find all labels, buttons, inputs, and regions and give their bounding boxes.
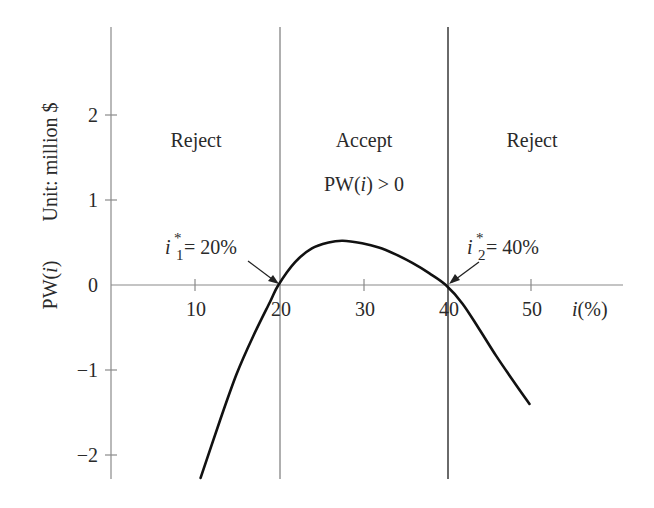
root2-rest: = 40% — [486, 236, 539, 258]
y-axis-label-group: PW(i) — [39, 261, 62, 310]
root-annotation-1: i * 1 = 20% — [165, 230, 279, 284]
x-tick-label-40: 40 — [439, 298, 459, 320]
x-tick-label-30: 30 — [355, 298, 375, 320]
x-axis-label: i(%) — [572, 298, 608, 321]
root2-sup: * — [476, 230, 484, 246]
x-axis-label-rest: (%) — [578, 298, 608, 321]
x-tick-labels: 10 20 30 40 50 — [186, 298, 542, 320]
x-tick-label-10: 10 — [186, 298, 206, 320]
unit-label-group: Unit: million $ — [39, 103, 61, 222]
y-tick-label-2: 2 — [88, 104, 98, 126]
root1-sub: 1 — [176, 247, 184, 263]
pw-curve — [201, 241, 530, 478]
region-label-reject-right: Reject — [506, 129, 558, 152]
root-annotation-2: i * 2 = 40% — [449, 230, 539, 284]
y-tick-labels: 2 1 0 −1 −2 — [77, 104, 98, 466]
x-tick-label-50: 50 — [522, 298, 542, 320]
y-tick-label-m1: −1 — [77, 359, 98, 381]
region-label-accept-condition: PW(i) > 0 — [324, 173, 404, 196]
y-tick-label-1: 1 — [88, 189, 98, 211]
x-tick-label-20: 20 — [271, 298, 291, 320]
root1-arrowhead-icon — [268, 275, 279, 284]
y-tick-label-m2: −2 — [77, 444, 98, 466]
region-label-accept: Accept — [336, 129, 393, 152]
y-tick-label-0: 0 — [88, 274, 98, 296]
unit-label: Unit: million $ — [39, 103, 61, 222]
root2-sub: 2 — [478, 247, 486, 263]
root2-base: i — [467, 236, 473, 258]
root1-rest: = 20% — [184, 236, 237, 258]
root1-base: i — [165, 236, 171, 258]
root1-sup: * — [174, 230, 182, 246]
region-label-reject-left: Reject — [170, 129, 222, 152]
chart-svg: 2 1 0 −1 −2 10 20 30 40 50 i(%) PW(i) Un… — [0, 0, 654, 508]
pw-chart: 2 1 0 −1 −2 10 20 30 40 50 i(%) PW(i) Un… — [0, 0, 654, 508]
y-axis-label: PW(i) — [39, 261, 62, 310]
root2-arrowhead-icon — [449, 274, 460, 284]
